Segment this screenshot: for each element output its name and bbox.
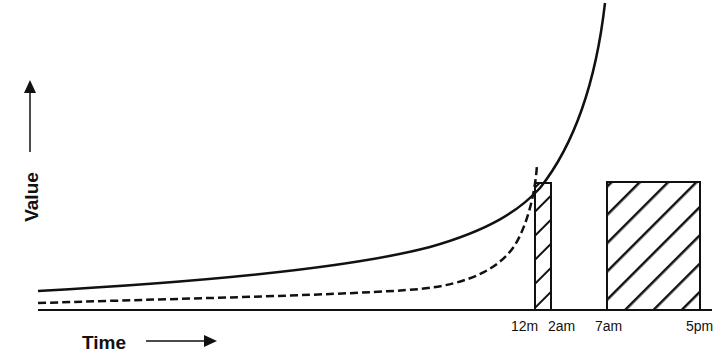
y-axis-title: Value	[21, 172, 42, 222]
right-arrow-icon	[204, 335, 217, 347]
chart: Value Time 12m 2am 7am 5pm	[0, 0, 723, 361]
tick-label-5pm: 5pm	[686, 318, 713, 334]
x-axis-title-group: Time	[82, 332, 217, 353]
bar-7am-5pm	[607, 182, 700, 310]
bar-12m-2am	[535, 183, 551, 310]
y-axis-title-group: Value	[21, 80, 42, 222]
x-axis-title: Time	[82, 332, 126, 353]
solid-curve	[38, 3, 605, 291]
tick-label-7am: 7am	[595, 318, 622, 334]
up-arrow-icon	[24, 80, 36, 93]
dashed-curve	[38, 165, 537, 303]
tick-label-2am: 2am	[548, 318, 575, 334]
tick-label-12m: 12m	[511, 318, 538, 334]
